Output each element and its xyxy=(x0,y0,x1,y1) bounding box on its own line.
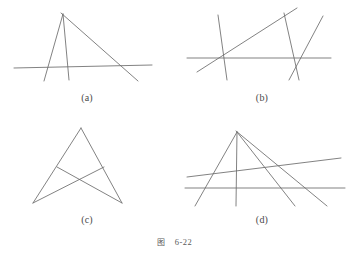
line-right-cross-chord xyxy=(33,167,104,203)
diagram-d xyxy=(175,122,349,216)
line-pencil-2 xyxy=(236,132,237,206)
figure-caption: 图6-22 xyxy=(0,236,349,247)
figure-panel-b: (b) xyxy=(175,0,349,115)
line-left-cevian xyxy=(44,14,63,81)
line-left-steep xyxy=(218,15,227,80)
line-right-cevian xyxy=(61,13,138,81)
panel-label-c: (c) xyxy=(0,214,174,225)
diagram-c xyxy=(0,122,174,216)
caption-number: 6-22 xyxy=(175,237,193,247)
line-pencil-4 xyxy=(236,131,327,206)
line-long-diagonal xyxy=(197,8,297,72)
figure-panel-d: (d) xyxy=(175,122,349,237)
line-right-up xyxy=(289,16,323,80)
panel-label-d: (d) xyxy=(175,214,349,225)
line-pencil-3 xyxy=(237,132,295,206)
line-slanted-transversal xyxy=(187,158,341,177)
line-middle-cevian xyxy=(63,14,69,80)
line-pencil-1 xyxy=(195,132,237,206)
figure-panel-a: (a) xyxy=(0,0,174,115)
figure-panel-c: (c) xyxy=(0,122,174,237)
diagram-b xyxy=(175,0,349,94)
line-base-transversal xyxy=(14,65,152,68)
panel-label-b: (b) xyxy=(175,92,349,103)
panel-label-a: (a) xyxy=(0,92,174,103)
caption-word: 图 xyxy=(157,238,165,247)
figure-plate: (a) (b) (c) (d) 图6-22 xyxy=(0,0,349,255)
line-right-down xyxy=(284,13,299,80)
diagram-a xyxy=(0,0,174,94)
line-left-side xyxy=(33,128,81,203)
